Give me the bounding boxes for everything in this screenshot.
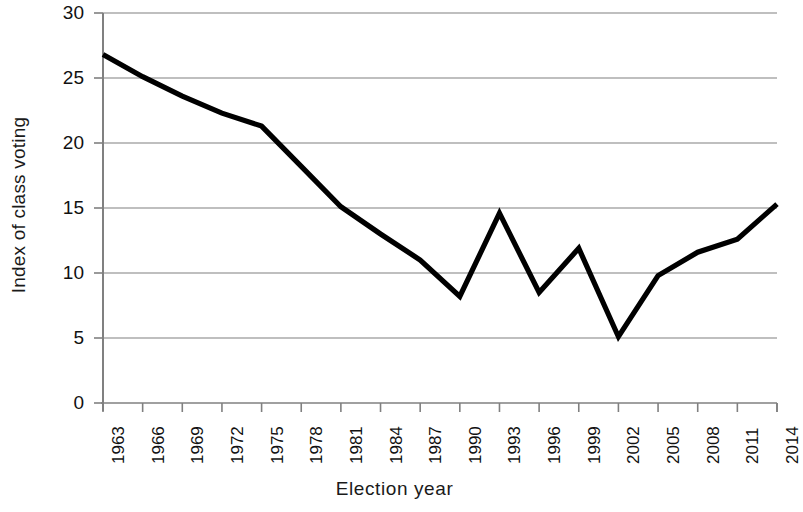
x-axis-title: Election year [0,478,789,500]
data-line-index-of-class-voting [103,55,777,337]
